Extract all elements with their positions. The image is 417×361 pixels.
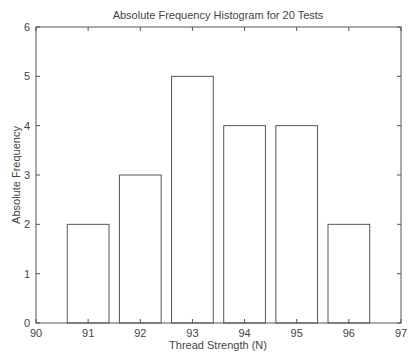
x-tick-label: 92: [134, 327, 146, 339]
histogram-bar: [328, 224, 370, 323]
y-tick-label: 0: [24, 317, 30, 329]
x-tick-label: 94: [238, 327, 250, 339]
y-tick-label: 3: [24, 169, 30, 181]
y-tick-label: 1: [24, 268, 30, 280]
chart-title: Absolute Frequency Histogram for 20 Test…: [113, 9, 324, 21]
histogram-bar: [276, 126, 318, 323]
x-tick-label: 96: [343, 327, 355, 339]
histogram-bar: [67, 224, 109, 323]
histogram-bar: [224, 126, 266, 323]
x-tick-label: 97: [395, 327, 407, 339]
x-tick-label: 91: [82, 327, 94, 339]
histogram-bar: [119, 175, 161, 323]
histogram-chart: Absolute Frequency Histogram for 20 Test…: [0, 0, 417, 361]
x-tick-label: 95: [291, 327, 303, 339]
x-tick-label: 93: [186, 327, 198, 339]
y-tick-label: 4: [24, 120, 30, 132]
y-tick-label: 2: [24, 218, 30, 230]
y-tick-label: 5: [24, 70, 30, 82]
x-tick-label: 90: [30, 327, 42, 339]
bars: [67, 76, 369, 323]
y-axis-label: Absolute Frequency: [10, 126, 22, 224]
y-tick-label: 6: [24, 21, 30, 33]
histogram-bar: [172, 76, 214, 323]
x-axis-label: Thread Strength (N): [169, 339, 267, 351]
